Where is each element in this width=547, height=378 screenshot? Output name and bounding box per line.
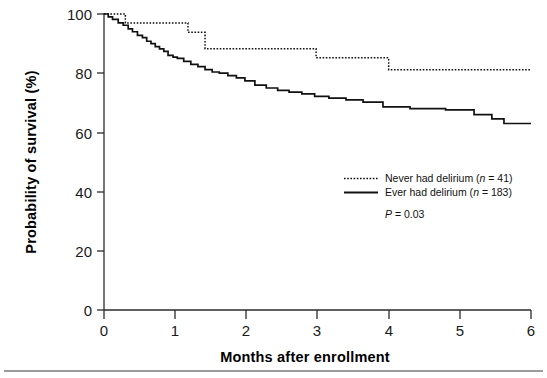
y-axis-title: Probability of survival (%)	[23, 70, 39, 253]
y-tick-label-100: 100	[67, 6, 92, 23]
series-line-ever-had-delirium	[104, 14, 531, 124]
x-tick-label-2: 2	[242, 322, 250, 339]
y-axis-tick-labels: 100 80 60 40 20 0	[67, 6, 92, 319]
y-tick-label-0: 0	[84, 302, 92, 319]
p-value-symbol: P	[385, 208, 392, 220]
x-tick-label-6: 6	[527, 322, 535, 339]
chart-canvas: 100 80 60 40 20 0 0 1 2 3 4 5 6	[0, 0, 547, 378]
series-line-never-had-delirium	[104, 14, 531, 70]
x-tick-label-1: 1	[171, 322, 179, 339]
x-tick-label-3: 3	[313, 322, 321, 339]
x-axis-title: Months after enrollment	[220, 349, 390, 365]
survival-chart-figure: 100 80 60 40 20 0 0 1 2 3 4 5 6	[0, 0, 547, 378]
legend-entry-ever-had-delirium: Ever had delirium (n = 183)	[385, 186, 512, 198]
x-axis-tick-labels: 0 1 2 3 4 5 6	[100, 322, 535, 339]
y-axis-ticks	[97, 14, 104, 310]
x-axis-ticks	[104, 310, 531, 319]
legend-suffix-1: = 183)	[479, 186, 512, 198]
legend-suffix-0: = 41)	[485, 172, 512, 184]
chart-legend: Never had delirium (n = 41) Ever had del…	[344, 172, 513, 220]
legend-prefix-1: Ever had delirium (	[385, 186, 474, 198]
p-value-annotation: P = 0.03	[385, 208, 425, 220]
x-tick-label-4: 4	[385, 322, 393, 339]
y-tick-label-80: 80	[75, 65, 92, 82]
x-tick-label-5: 5	[456, 322, 464, 339]
y-tick-label-60: 60	[75, 125, 92, 142]
y-tick-label-20: 20	[75, 243, 92, 260]
p-value-rest: = 0.03	[392, 208, 425, 220]
legend-prefix-0: Never had delirium (	[385, 172, 480, 184]
legend-entry-never-had-delirium: Never had delirium (n = 41)	[385, 172, 513, 184]
y-tick-label-40: 40	[75, 184, 92, 201]
x-tick-label-0: 0	[100, 322, 108, 339]
